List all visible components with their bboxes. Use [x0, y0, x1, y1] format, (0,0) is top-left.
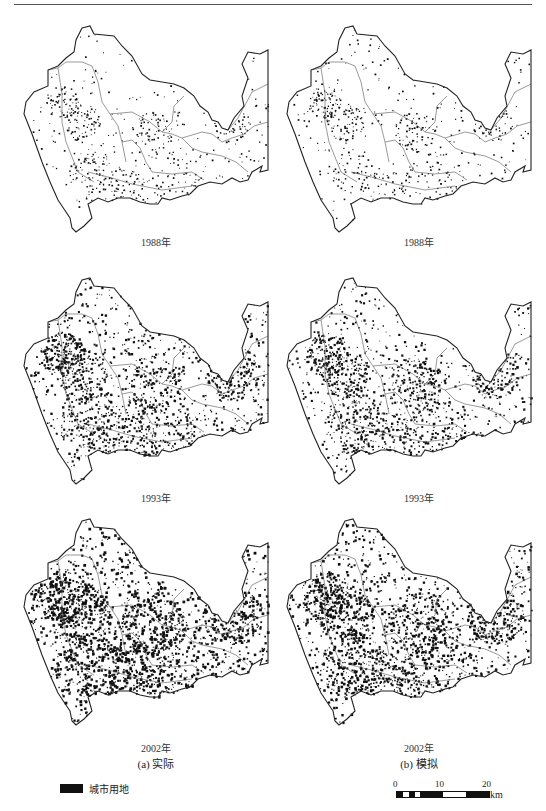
map-panel-simulated-1993 [285, 274, 535, 499]
scale-tick-0: 0 [393, 779, 398, 789]
legend: 城市用地 [60, 781, 129, 796]
city-boundary [287, 278, 531, 484]
year-label-simulated-1988: 1988年 [359, 234, 479, 249]
map-panel-actual-1988 [22, 22, 272, 247]
scale-tick-10: 10 [435, 779, 444, 789]
scale-unit: km [490, 789, 503, 800]
year-label-actual-2002: 2002年 [96, 740, 216, 755]
year-label-actual-1988: 1988年 [96, 234, 216, 249]
map-panel-simulated-2002 [285, 515, 535, 740]
year-label-simulated-2002: 2002年 [359, 740, 479, 755]
map-actual-2002 [22, 515, 272, 740]
scale-tick-20: 20 [482, 779, 491, 789]
caption-simulated: (b) 模拟 [359, 755, 479, 771]
map-actual-1993 [22, 274, 272, 499]
page-header-rule [14, 4, 532, 5]
map-panel-actual-1993 [22, 274, 272, 499]
year-label-simulated-1993: 1993年 [359, 490, 479, 505]
city-boundary [24, 26, 268, 232]
scale-bar-graphic [396, 791, 490, 798]
map-panel-simulated-1988 [285, 22, 535, 247]
legend-label: 城市用地 [89, 781, 129, 796]
caption-actual: (a) 实际 [96, 755, 216, 771]
map-panel-actual-2002 [22, 515, 272, 740]
scale-bar: 0 10 20 km [393, 779, 533, 809]
map-simulated-1988 [285, 22, 535, 247]
map-actual-1988 [22, 22, 272, 247]
urban-land-swatch-icon [60, 784, 83, 793]
map-simulated-2002 [285, 515, 535, 740]
map-simulated-1993 [285, 274, 535, 499]
year-label-actual-1993: 1993年 [96, 490, 216, 505]
